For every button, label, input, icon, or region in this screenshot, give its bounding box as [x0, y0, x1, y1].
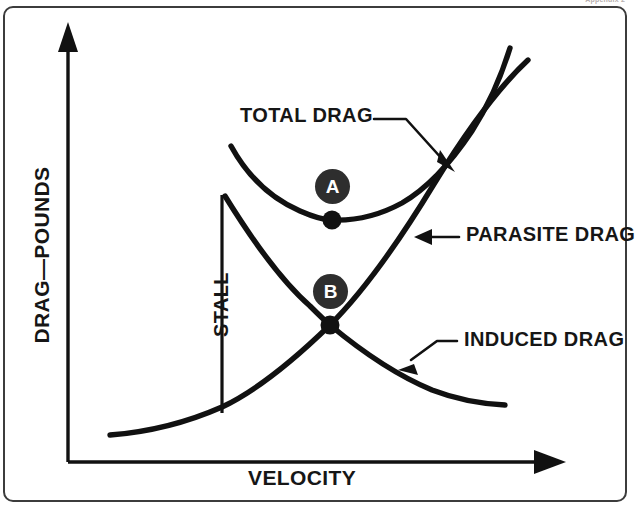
chart-border-panel [3, 6, 627, 502]
induced-drag-label: INDUCED DRAG [464, 328, 624, 351]
appendix-header-note: Appendix 2 [585, 0, 625, 3]
marker-badge-b: B [313, 274, 348, 309]
total-drag-label: TOTAL DRAG [240, 104, 373, 127]
x-axis-label: VELOCITY [248, 466, 356, 490]
parasite-drag-label: PARASITE DRAG [466, 223, 635, 246]
marker-badge-a: A [315, 169, 350, 204]
y-axis-label: DRAG—POUNDS [30, 155, 54, 355]
stall-label: STALL [210, 249, 233, 361]
